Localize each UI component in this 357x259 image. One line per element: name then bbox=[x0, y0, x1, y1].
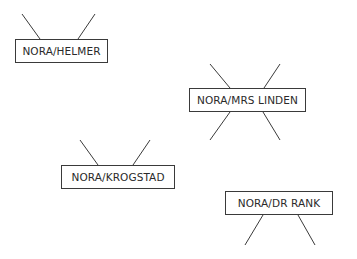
connector-line-krogstad-top bbox=[80, 140, 98, 165]
connector-line-rank-bottom bbox=[245, 215, 263, 245]
connector-line-linden-top bbox=[264, 64, 280, 88]
connector-line-krogstad-top bbox=[133, 140, 150, 165]
node-nora-mrs-linden: NORA/MRS LINDEN bbox=[189, 88, 306, 112]
node-nora-krogstad: NORA/KROGSTAD bbox=[61, 165, 175, 189]
node-nora-dr-rank: NORA/DR RANK bbox=[225, 191, 333, 215]
connector-line-linden-bottom bbox=[210, 112, 230, 140]
node-label: NORA/KROGSTAD bbox=[71, 171, 164, 183]
connector-line-linden-top bbox=[210, 64, 230, 88]
node-label: NORA/DR RANK bbox=[238, 197, 320, 209]
connector-line-linden-bottom bbox=[263, 112, 280, 140]
connector-line-helmer-top bbox=[78, 14, 95, 39]
node-label: NORA/MRS LINDEN bbox=[197, 94, 298, 106]
connector-line-rank-bottom bbox=[298, 215, 315, 245]
node-label: NORA/HELMER bbox=[22, 45, 100, 57]
node-nora-helmer: NORA/HELMER bbox=[15, 39, 108, 63]
relationship-diagram: NORA/HELMER NORA/MRS LINDEN NORA/KROGSTA… bbox=[0, 0, 357, 259]
connector-line-helmer-top bbox=[22, 14, 40, 39]
